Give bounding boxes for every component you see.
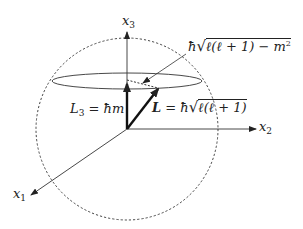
sqrt-icon: √ xyxy=(196,37,206,55)
perp-component-line xyxy=(127,80,158,88)
L3-label: L3 = ħm xyxy=(70,102,124,118)
L-label-L: L xyxy=(152,100,161,115)
x2-label-sub: 2 xyxy=(266,126,272,136)
x1-axis xyxy=(31,129,127,195)
x3-axis-label: x3 xyxy=(122,14,135,30)
x1-axis-label: x1 xyxy=(13,187,26,203)
perp-label-radical: ℓ(ℓ + 1) − m2 xyxy=(206,38,291,53)
pointer-arrow xyxy=(143,54,186,83)
L3-label-L: L xyxy=(70,101,79,116)
L3-label-eq: = xyxy=(84,101,103,116)
L-magnitude-label: L = ħ√ℓ(ℓ + 1) xyxy=(152,99,247,115)
L-label-hbar: ħ xyxy=(180,100,188,115)
sqrt-icon: √ xyxy=(189,98,199,116)
perp-label-exp: 2 xyxy=(286,39,291,48)
perp-magnitude-label: ħ√ℓ(ℓ + 1) − m2 xyxy=(188,38,291,54)
perp-label-radicand: ℓ(ℓ + 1) − m xyxy=(206,39,286,54)
x1-label-sub: 1 xyxy=(20,193,26,203)
L3-label-rhs: ħm xyxy=(104,101,125,116)
L-label-eq: = xyxy=(161,100,180,115)
x2-axis-label: x2 xyxy=(259,120,272,136)
L-label-radicand: ℓ(ℓ + 1) xyxy=(198,99,246,114)
x3-label-sub: 3 xyxy=(129,20,135,30)
